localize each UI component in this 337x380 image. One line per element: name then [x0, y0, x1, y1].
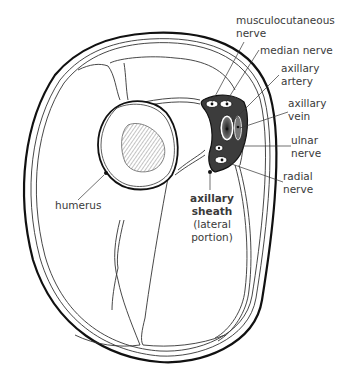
label-axillary-vein: axillary vein [288, 97, 326, 123]
label-humerus: humerus [55, 199, 101, 212]
label-radial-nerve: radial nerve [283, 170, 313, 196]
humerus-bone [98, 101, 178, 189]
label-axillary-artery: axillary artery [281, 62, 319, 88]
arm-cross-section-diagram: musculocutaneous nerve median nerve axil… [0, 0, 337, 380]
label-musculocutaneous-nerve: musculocutaneous nerve [236, 14, 335, 40]
label-median-nerve: median nerve [260, 44, 333, 57]
label-axillary-sheath: axillary sheath (lateral portion) [182, 192, 242, 244]
label-ulnar-nerve: ulnar nerve [291, 134, 321, 160]
